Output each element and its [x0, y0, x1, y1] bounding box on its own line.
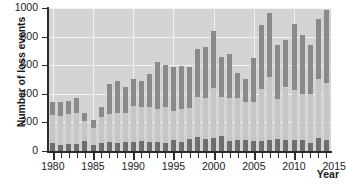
- bar-segment-2001-1: [219, 97, 224, 136]
- x-tick-mark-minor: [278, 153, 279, 158]
- bar-1989: [123, 8, 128, 151]
- bar-segment-2001-2: [219, 57, 224, 97]
- bar-segment-1983-1: [74, 113, 79, 143]
- x-tick-mark-minor: [326, 153, 327, 158]
- bar-series-group: [48, 8, 331, 151]
- bar-segment-1982-1: [66, 114, 71, 144]
- bar-segment-2003-2: [235, 73, 240, 98]
- x-tick-mark-minor: [286, 153, 287, 158]
- x-tick-label: 1980: [41, 160, 64, 172]
- bar-1994: [163, 8, 168, 151]
- x-tick-mark-minor: [190, 153, 191, 158]
- x-tick-mark-major: [173, 153, 175, 160]
- bar-1992: [147, 8, 152, 151]
- bar-segment-1986-0: [99, 143, 104, 151]
- bar-segment-2009-2: [283, 40, 288, 88]
- bar-segment-1995-1: [171, 111, 176, 140]
- bar-segment-1985-1: [91, 128, 96, 145]
- bar-segment-1985-2: [91, 120, 96, 128]
- bar-2000: [211, 8, 216, 151]
- y-tick-label: 1000: [15, 1, 38, 13]
- bar-1986: [99, 8, 104, 151]
- bar-segment-1991-0: [139, 141, 144, 151]
- x-tick-mark-minor: [230, 153, 231, 158]
- bar-segment-2011-2: [300, 35, 305, 93]
- bar-segment-2009-1: [283, 88, 288, 141]
- bar-segment-2012-2: [308, 45, 313, 95]
- bar-1995: [171, 8, 176, 151]
- bar-2004: [243, 8, 248, 151]
- bar-segment-2002-2: [227, 54, 232, 98]
- bar-segment-2012-0: [308, 143, 313, 151]
- bar-segment-1992-0: [147, 142, 152, 151]
- x-tick-mark-major: [53, 153, 55, 160]
- bar-segment-1998-1: [195, 97, 200, 137]
- bar-2006: [259, 8, 264, 151]
- bar-segment-1996-2: [179, 66, 184, 109]
- bar-segment-2014-1: [324, 83, 329, 140]
- bar-2012: [308, 8, 313, 151]
- bar-segment-1990-1: [131, 106, 136, 142]
- y-tick-mark: [42, 37, 47, 38]
- x-tick-label: 2000: [202, 160, 225, 172]
- bar-segment-1998-2: [195, 49, 200, 97]
- bar-1998: [195, 8, 200, 151]
- bar-segment-2013-1: [316, 79, 321, 138]
- x-tick-label: 1985: [81, 160, 104, 172]
- bar-segment-2002-0: [227, 141, 232, 151]
- bar-2001: [219, 8, 224, 151]
- bar-2013: [316, 8, 321, 151]
- bar-segment-1991-2: [139, 81, 144, 107]
- bar-2010: [292, 8, 297, 151]
- x-tick-label: 1990: [122, 160, 145, 172]
- bar-segment-2004-1: [243, 102, 248, 141]
- bar-segment-1994-0: [163, 143, 168, 151]
- x-tick-mark-minor: [77, 153, 78, 158]
- x-tick-mark-major: [214, 153, 216, 160]
- bar-1999: [203, 8, 208, 151]
- bar-segment-1994-1: [163, 107, 168, 143]
- bar-segment-1987-1: [107, 114, 112, 142]
- x-tick-mark-minor: [262, 153, 263, 158]
- bar-segment-1980-0: [50, 143, 55, 151]
- bar-segment-1981-1: [58, 116, 63, 144]
- bar-segment-1991-1: [139, 107, 144, 141]
- bar-segment-2005-0: [251, 141, 256, 151]
- bar-segment-2006-2: [259, 25, 264, 90]
- bar-segment-1989-1: [123, 113, 128, 142]
- x-tick-mark-minor: [246, 153, 247, 158]
- bar-segment-2006-0: [259, 141, 264, 151]
- bar-segment-2007-0: [267, 140, 272, 151]
- bar-segment-1994-2: [163, 65, 168, 106]
- bar-segment-1988-0: [115, 143, 120, 151]
- bar-segment-2005-1: [251, 102, 256, 141]
- bar-segment-1997-2: [187, 67, 192, 107]
- bar-segment-2007-1: [267, 77, 272, 140]
- bar-segment-2003-0: [235, 140, 240, 151]
- y-axis-line: [47, 7, 49, 152]
- y-tick-label: 600: [20, 58, 38, 70]
- x-tick-label: 2015: [323, 160, 346, 172]
- bar-1985: [91, 8, 96, 151]
- y-tick-label: 400: [20, 87, 38, 99]
- y-tick-mark: [42, 151, 47, 152]
- bar-segment-1997-0: [187, 139, 192, 151]
- bar-segment-2011-0: [300, 140, 305, 151]
- y-tick-mark: [42, 65, 47, 66]
- x-tick-mark-minor: [302, 153, 303, 158]
- bar-1996: [179, 8, 184, 151]
- bar-segment-1999-2: [203, 47, 208, 98]
- bar-2014: [324, 8, 329, 151]
- bar-2003: [235, 8, 240, 151]
- bar-segment-2014-2: [324, 10, 329, 83]
- x-tick-mark-minor: [270, 153, 271, 158]
- bar-1981: [58, 8, 63, 151]
- bar-segment-2004-0: [243, 140, 248, 151]
- bar-segment-2010-1: [292, 90, 297, 140]
- y-tick-mark: [42, 8, 47, 9]
- bar-1990: [131, 8, 136, 151]
- bar-segment-1987-0: [107, 142, 112, 151]
- x-tick-mark-minor: [310, 153, 311, 158]
- x-tick-label: 2005: [242, 160, 265, 172]
- bar-segment-1992-1: [147, 107, 152, 142]
